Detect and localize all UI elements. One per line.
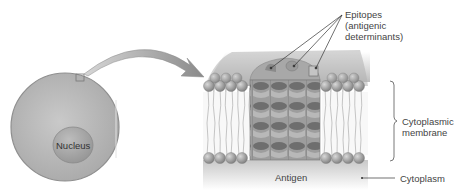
cell — [11, 73, 119, 181]
epitopes-label-1: Epitopes — [345, 9, 382, 20]
membrane-bracket — [390, 81, 397, 161]
membrane-label-2: membrane — [402, 127, 447, 138]
antigen-protein — [250, 58, 320, 160]
epitopes-label-2: (antigenic — [345, 20, 386, 31]
antigen-label: Antigen — [275, 172, 307, 183]
curved-arrow — [84, 49, 204, 77]
membrane-label-1: Cytoplasmic — [402, 116, 454, 127]
epitopes-label-3: determinants) — [345, 31, 403, 42]
nucleus-label: Nucleus — [56, 140, 90, 151]
antigen-membrane-diagram — [0, 0, 473, 196]
cytoplasm-label: Cytoplasm — [400, 173, 445, 184]
epitope-2 — [286, 61, 298, 71]
